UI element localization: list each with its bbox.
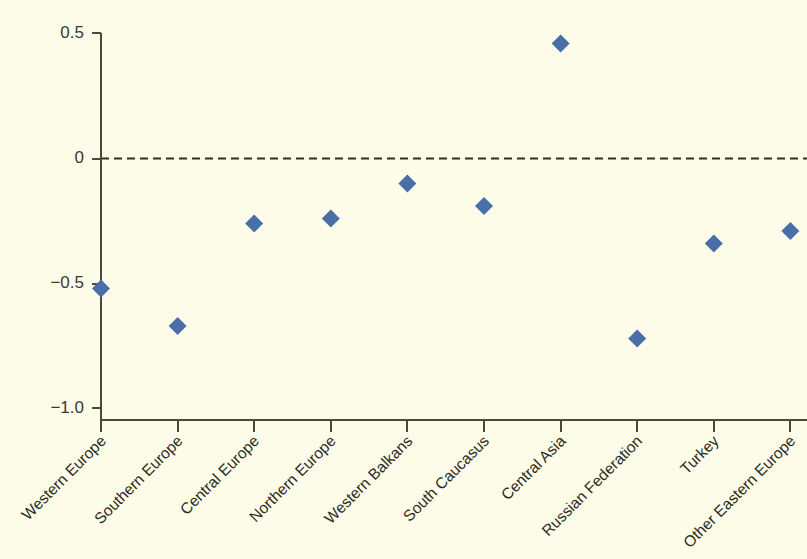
chart-plot-area: 0.5 0 −0.5 −1.0 Western EuropeSouthern E… bbox=[0, 0, 807, 559]
y-tick-label: 0.5 bbox=[60, 23, 84, 42]
y-tick-label: 0 bbox=[75, 148, 84, 167]
scatter-chart: 0.5 0 −0.5 −1.0 Western EuropeSouthern E… bbox=[0, 0, 807, 559]
y-tick-label: −1.0 bbox=[50, 398, 84, 417]
y-tick-label: −0.5 bbox=[50, 273, 84, 292]
